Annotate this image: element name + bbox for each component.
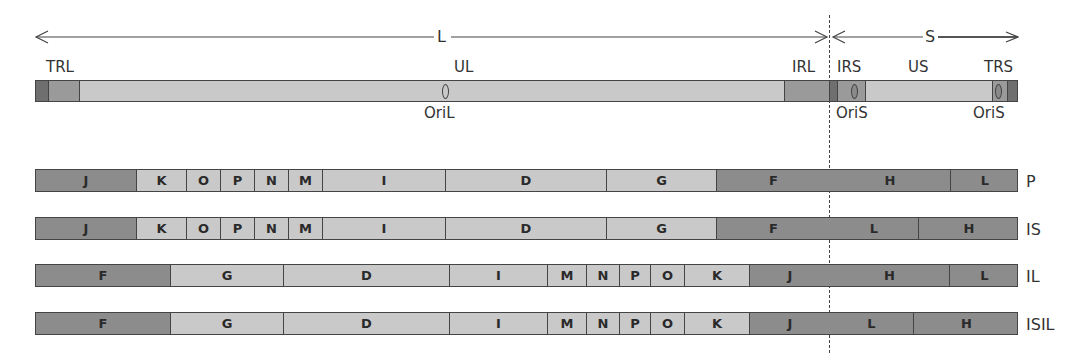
isomer-label-p: P [1026,172,1036,191]
segment-m: M [289,218,323,239]
genome-segment-ul [80,81,785,101]
OriS-label-1: OriS [836,106,868,121]
segment-n: N [587,313,620,334]
OriL-label: OriL [424,106,455,121]
isomer-label-isil: ISIL [1026,315,1055,334]
segment-i: I [323,218,446,239]
segment-p: P [221,218,255,239]
isomer-bar-il: FGDIMNPOKJHL [35,264,1018,287]
segment-i: I [323,170,446,191]
segment-n: N [255,170,289,191]
segment-n: N [587,265,620,286]
segment-h: H [830,265,950,286]
segment-h: H [830,170,951,191]
isomer-bar-isil: FGDIMNPOKJLH [35,312,1018,335]
segment-o: O [651,313,685,334]
genome-segment-us [866,81,993,101]
oris-ellipse-icon [995,84,1002,99]
segment-d: D [446,218,607,239]
genome-segment-junction-dark [830,81,838,101]
TRS-label: TRS [984,60,1013,75]
segment-p: P [221,170,255,191]
segment-l: L [950,265,1018,286]
segment-j: J [750,265,830,286]
OriS-label-2: OriS [973,106,1005,121]
segment-j: J [750,313,830,334]
segment-o: O [187,170,221,191]
isomer-label-il: IL [1026,267,1040,286]
segment-o: O [651,265,685,286]
segment-d: D [284,265,450,286]
segment-g: G [607,170,717,191]
segment-m: M [548,265,587,286]
segment-d: D [446,170,607,191]
isomer-bar-p: JKOPNMIDGFHL [35,169,1018,192]
segment-g: G [607,218,717,239]
region-arrows [0,0,1083,60]
segment-f: F [717,170,830,191]
segment-m: M [289,170,323,191]
segment-k: K [137,170,187,191]
segment-g: G [171,265,284,286]
genome-segment-trl [49,81,80,101]
segment-l: L [830,313,914,334]
US-label: US [908,60,929,75]
segment-l: L [830,218,919,239]
segment-h: H [914,313,1018,334]
L-label: L [437,29,446,45]
genome-bar [35,80,1018,102]
segment-d: D [284,313,450,334]
oris-ellipse-icon [851,84,858,99]
S-label: S [925,29,935,45]
oril-ellipse-icon [442,84,449,99]
IRL-label: IRL [792,60,815,75]
segment-f: F [717,218,830,239]
isomer-label-is: IS [1026,220,1041,239]
segment-g: G [171,313,284,334]
segment-k: K [137,218,187,239]
segment-f: F [36,313,171,334]
segment-p: P [620,313,651,334]
segment-h: H [919,218,1018,239]
segment-o: O [187,218,221,239]
isomer-bar-is: JKOPNMIDGFLH [35,217,1018,240]
segment-j: J [36,218,137,239]
segment-k: K [685,265,750,286]
IRS-label: IRS [837,60,861,75]
segment-m: M [548,313,587,334]
genome-segment-irl [785,81,830,101]
genome-segment-terminal-dark-right [1008,81,1018,101]
UL-label: UL [454,60,473,75]
genome-segment-terminal-dark-left [36,81,49,101]
segment-k: K [685,313,750,334]
segment-f: F [36,265,171,286]
segment-i: I [450,313,548,334]
segment-p: P [620,265,651,286]
segment-i: I [450,265,548,286]
segment-n: N [255,218,289,239]
segment-j: J [36,170,137,191]
segment-l: L [951,170,1018,191]
TRL-label: TRL [46,60,74,75]
